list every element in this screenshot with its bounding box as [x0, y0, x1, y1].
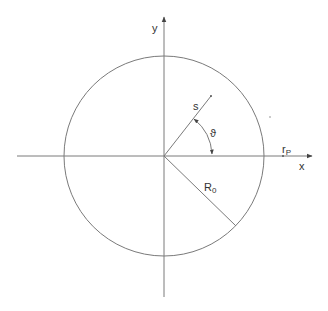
- rp-label-sub: P: [286, 148, 291, 157]
- rp-label: rP: [282, 143, 291, 157]
- r0-label-sub: 0: [212, 186, 217, 195]
- r0-label: R0: [204, 181, 217, 195]
- x-axis-label: x: [299, 160, 305, 172]
- s-radial-line: [164, 96, 211, 156]
- s-endpoint-dot: [210, 95, 212, 97]
- s-label: s: [193, 100, 199, 112]
- small-dot-mark: [269, 116, 271, 118]
- r0-label-main: R: [204, 181, 212, 193]
- theta-label: ϑ: [210, 127, 216, 139]
- rp-point-dot: [282, 155, 284, 157]
- y-axis-label: y: [152, 22, 158, 34]
- polar-diagram: y x s ϑ rP R0: [0, 0, 328, 311]
- r0-radius-line: [164, 156, 236, 226]
